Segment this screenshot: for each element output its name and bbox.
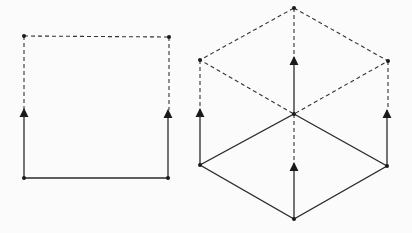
vertex-dot	[292, 6, 296, 10]
diagram-canvas	[0, 0, 412, 233]
vertex-dot	[167, 35, 171, 39]
vertex-dot	[198, 163, 202, 167]
vertex-dot	[292, 112, 296, 116]
square-figure	[22, 34, 171, 180]
vertex-dot	[386, 59, 390, 63]
vertex-dot	[198, 58, 202, 62]
cube-figure	[198, 6, 390, 221]
square-top-edge	[24, 36, 169, 37]
vertex-dot	[166, 176, 170, 180]
vertex-dot	[22, 34, 26, 38]
vertex-dot	[22, 176, 26, 180]
vertex-dot	[292, 217, 296, 221]
vertex-dot	[385, 164, 389, 168]
